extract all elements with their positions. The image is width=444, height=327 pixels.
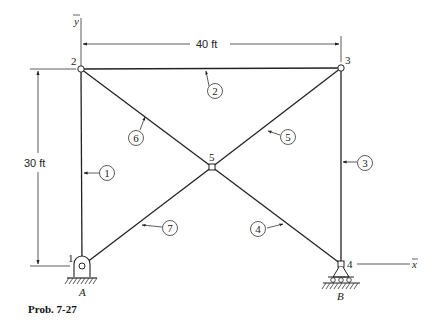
member-5 [212, 68, 341, 167]
member-label-6: 6 [129, 117, 146, 146]
node-label-1: 1 [68, 252, 74, 264]
node-label-2: 2 [71, 55, 77, 67]
node-label-5: 5 [209, 151, 215, 163]
width-dimension: 40 ft [83, 36, 341, 62]
x-axis: x [357, 258, 418, 270]
member-label-4: 4 [251, 222, 284, 237]
svg-text:1: 1 [104, 167, 110, 179]
x-axis-label: x [411, 258, 417, 270]
svg-text:7: 7 [167, 222, 173, 234]
joint-5 [209, 164, 215, 170]
member-6 [81, 69, 212, 167]
joint-3 [338, 65, 344, 71]
height-dimension: 30 ft [24, 69, 76, 266]
svg-text:5: 5 [285, 131, 291, 143]
member-label-7: 7 [142, 221, 178, 236]
member-label-2: 2 [206, 71, 223, 99]
figure-caption: Prob. 7-27 [28, 303, 77, 315]
joint-2 [78, 66, 84, 72]
member-7 [82, 167, 212, 266]
member-2 [81, 68, 341, 69]
height-dimension-label: 30 ft [24, 157, 45, 169]
y-axis-label: y [73, 15, 79, 27]
member-4 [212, 167, 341, 264]
member-label-3: 3 [343, 156, 373, 171]
svg-text:6: 6 [133, 132, 139, 144]
support-label-a: A [78, 286, 86, 298]
node-label-3: 3 [345, 54, 351, 66]
truss-diagram: y x 40 ft 30 ft 1 2 [0, 0, 444, 327]
member-label-1: 1 [84, 166, 115, 181]
svg-text:4: 4 [255, 223, 261, 235]
node-label-4: 4 [347, 258, 353, 270]
member-1 [81, 69, 82, 266]
width-dimension-label: 40 ft [196, 38, 217, 50]
svg-text:2: 2 [212, 85, 218, 97]
member-label-5: 5 [268, 130, 296, 145]
svg-text:3: 3 [362, 157, 368, 169]
support-label-b: B [337, 290, 344, 302]
roller-support-b: B [322, 261, 360, 302]
